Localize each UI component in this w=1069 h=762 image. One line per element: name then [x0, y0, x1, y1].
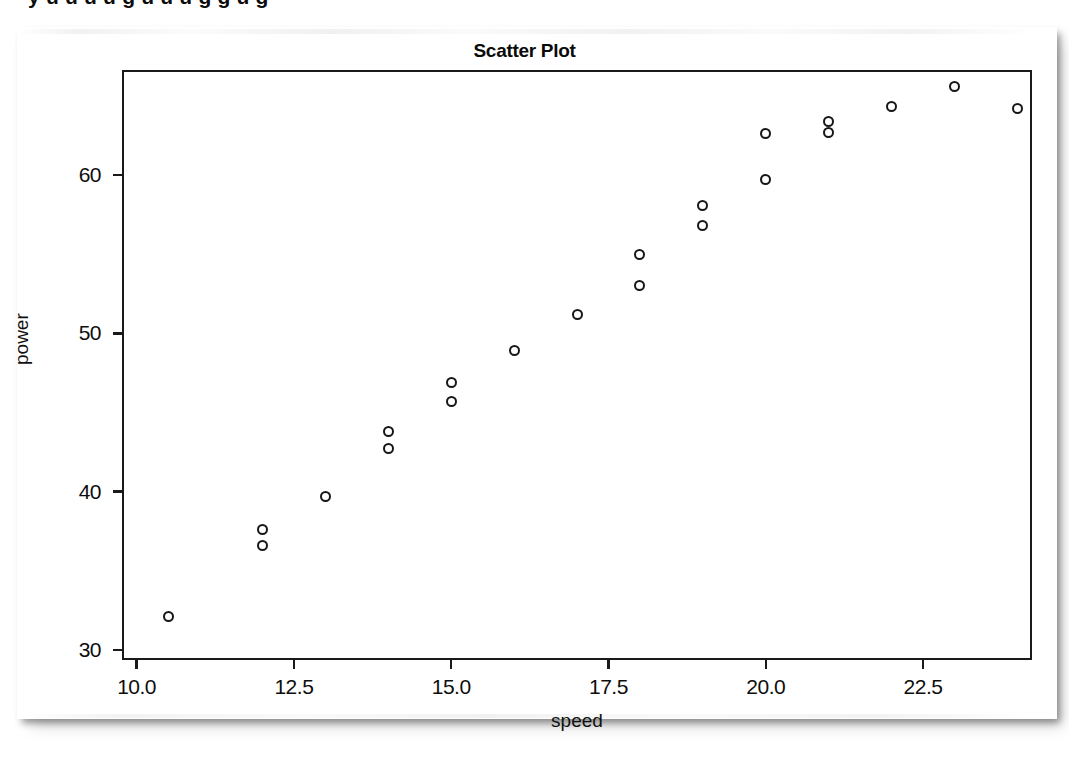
x-tick-label: 22.5	[878, 675, 968, 699]
y-tick-mark	[113, 174, 124, 177]
plot-data-area	[124, 72, 1030, 658]
data-point	[697, 220, 708, 231]
x-tick-mark	[607, 658, 610, 669]
data-point	[949, 81, 960, 92]
data-point	[634, 249, 645, 260]
data-point	[383, 426, 394, 437]
x-tick-mark	[135, 658, 138, 669]
data-point	[823, 127, 834, 138]
x-tick-label: 12.5	[249, 675, 339, 699]
x-tick-mark	[293, 658, 296, 669]
x-tick-label: 20.0	[721, 675, 811, 699]
x-tick-label: 15.0	[406, 675, 496, 699]
y-tick-label: 50	[41, 321, 101, 345]
data-point	[1012, 103, 1023, 114]
plot-title: Scatter Plot	[17, 40, 1032, 62]
data-point	[886, 101, 897, 112]
y-tick-label: 30	[41, 638, 101, 662]
x-axis-title: speed	[122, 710, 1032, 732]
y-tick-mark	[113, 649, 124, 652]
y-tick-mark	[113, 332, 124, 335]
data-point	[634, 280, 645, 291]
x-tick-mark	[922, 658, 925, 669]
y-tick-label: 60	[41, 163, 101, 187]
x-tick-mark	[450, 658, 453, 669]
cropped-text-above-figure: y u u u u g u u u g g u g	[0, 0, 1069, 20]
y-tick-label: 40	[41, 480, 101, 504]
data-point	[509, 345, 520, 356]
x-tick-label: 10.0	[92, 675, 182, 699]
data-point	[446, 396, 457, 407]
data-point	[383, 443, 394, 454]
x-tick-mark	[765, 658, 768, 669]
data-point	[572, 309, 583, 320]
data-point	[697, 200, 708, 211]
y-axis-title: power	[11, 313, 33, 365]
y-tick-mark	[113, 490, 124, 493]
data-point	[760, 174, 771, 185]
plot-frame: 30405060 10.012.515.017.520.022.5	[122, 70, 1032, 660]
data-point	[163, 611, 174, 622]
cropped-text-ink: y u u u u g u u u g g u g	[28, 0, 1028, 9]
data-point	[760, 128, 771, 139]
data-point	[320, 491, 331, 502]
data-point	[823, 116, 834, 127]
data-point	[257, 540, 268, 551]
x-tick-label: 17.5	[563, 675, 653, 699]
scanned-page-card: Scatter Plot power speed 30405060 10.012…	[17, 27, 1057, 719]
data-point	[257, 524, 268, 535]
scatter-plot-figure: Scatter Plot power speed 30405060 10.012…	[17, 27, 1057, 719]
data-point	[446, 377, 457, 388]
